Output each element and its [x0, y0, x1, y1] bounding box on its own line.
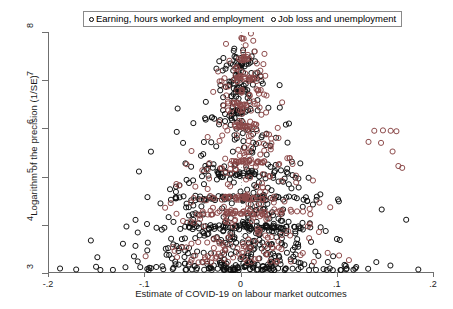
legend-label-jobloss: Job loss and unemployment [278, 14, 396, 24]
chart-legend: Earning, hours worked and employment Job… [83, 11, 402, 27]
y-tick-label: 6 [25, 119, 35, 135]
legend-entry-earning[interactable]: Earning, hours worked and employment [89, 14, 264, 24]
x-tick [433, 272, 434, 277]
scatter-points-canvas [48, 32, 433, 273]
y-tick-label: 3 [25, 264, 35, 280]
open-circle-icon [271, 17, 276, 22]
legend-label-earning: Earning, hours worked and employment [96, 14, 264, 24]
y-tick-label: 4 [25, 216, 35, 232]
y-tick-label: 7 [25, 71, 35, 87]
scatter-plot-area [48, 32, 433, 273]
y-tick-label: 8 [25, 23, 35, 39]
x-axis-title: Estimate of COVID-19 on labour market ou… [49, 288, 433, 299]
funnel-plot-figure: Logarithm of the precision (1/SE) 345678… [0, 0, 453, 309]
open-circle-icon [89, 17, 94, 22]
y-tick-label: 5 [25, 168, 35, 184]
legend-entry-jobloss[interactable]: Job loss and unemployment [271, 14, 396, 24]
